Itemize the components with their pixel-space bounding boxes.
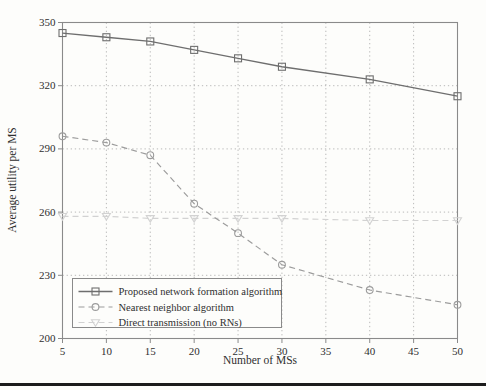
y-tick-label: 230 <box>39 269 56 281</box>
scanned-figure-page: 5101520253035404550200230260290320350Pro… <box>0 0 486 390</box>
legend-label: Proposed network formation algorithm <box>119 286 283 297</box>
y-axis-label: Average utility per MS <box>6 127 19 233</box>
y-tick-label: 350 <box>39 16 56 28</box>
legend-label: Direct transmission (no RNs) <box>119 317 243 329</box>
x-tick-label: 5 <box>60 345 66 357</box>
x-tick-label: 20 <box>189 345 201 357</box>
y-tick-label: 260 <box>39 206 56 218</box>
x-tick-label: 50 <box>452 345 464 357</box>
y-tick-label: 290 <box>39 142 56 154</box>
y-tick-label: 200 <box>39 332 56 344</box>
x-axis-label: Number of MSs <box>223 354 298 366</box>
legend-label: Nearest neighbor algorithm <box>119 302 234 313</box>
x-tick-label: 15 <box>145 345 157 357</box>
series-line-2 <box>63 216 458 220</box>
x-tick-label: 45 <box>408 345 420 357</box>
x-tick-label: 40 <box>364 345 376 357</box>
series-line-0 <box>63 33 458 96</box>
y-tick-label: 320 <box>39 79 56 91</box>
series-1-marker <box>235 230 242 237</box>
utility-vs-ms-chart: 5101520253035404550200230260290320350Pro… <box>0 0 486 378</box>
x-tick-label: 35 <box>320 345 332 357</box>
x-tick-label: 10 <box>101 345 113 357</box>
page-footer-rule <box>0 383 486 386</box>
